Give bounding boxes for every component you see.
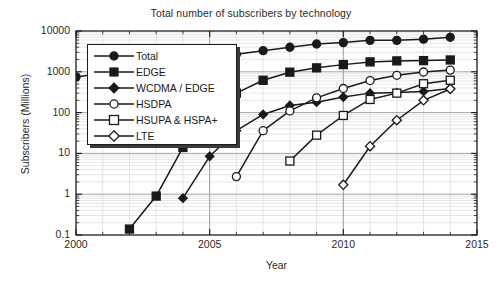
legend-label: WCDMA / EDGE — [136, 83, 215, 94]
legend-key-filled-diamond — [92, 80, 136, 96]
legend-item-wcdma-edge: WCDMA / EDGE — [92, 80, 236, 96]
legend-key-filled-circle — [92, 48, 136, 64]
legend-label: HSUPA & HSPA+ — [136, 115, 218, 126]
legend-key-open-square — [92, 112, 136, 128]
legend-item-lte: LTE — [92, 128, 236, 144]
legend-key-open-circle — [92, 96, 136, 112]
legend-label: HSDPA — [136, 99, 171, 110]
legend-key-filled-square — [92, 64, 136, 80]
legend-item-hsupa-hspa-plus: HSUPA & HSPA+ — [92, 112, 236, 128]
legend-item-total: Total — [92, 48, 236, 64]
chart-figure: Total number of subscribers by technolog… — [0, 0, 502, 281]
chart-legend: Total EDGE WCDMA / EDGE HSDPA HSUPA & HS… — [87, 44, 237, 145]
plot-area — [0, 0, 502, 281]
legend-item-hsdpa: HSDPA — [92, 96, 236, 112]
legend-key-open-diamond — [92, 128, 136, 144]
legend-item-edge: EDGE — [92, 64, 236, 80]
legend-label: Total — [136, 51, 158, 62]
legend-label: LTE — [136, 131, 154, 142]
legend-label: EDGE — [136, 67, 166, 78]
